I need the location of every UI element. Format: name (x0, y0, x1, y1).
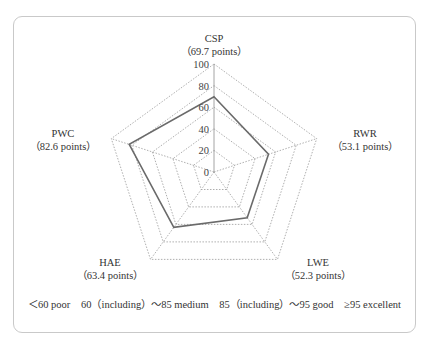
axis-label-csp: CSP （69.7 points） (174, 32, 254, 58)
axis-name: HAE (60, 256, 160, 269)
axis-name: LWE (268, 256, 368, 269)
axis-score: （63.4 points） (60, 269, 160, 282)
tick-label-0: 0 (204, 167, 209, 178)
tick-label-60: 60 (199, 102, 210, 113)
axis-label-lwe: LWE （52.3 points） (268, 256, 368, 282)
axis-label-rwr: RWR （53.1 points） (320, 127, 410, 153)
radial-tick-labels: 020406080100 (193, 59, 209, 178)
axis-name: CSP (174, 32, 254, 45)
axis-label-pwc: PWC （82.6 points） (18, 127, 108, 153)
axis-score: （69.7 points） (174, 45, 254, 58)
tick-label-80: 80 (199, 81, 210, 92)
axis-name: RWR (320, 127, 410, 140)
legend-medium: 60（including）～85 medium (81, 299, 209, 310)
legend-good: 85（including）～95 good (219, 299, 333, 310)
score-polygon (129, 97, 268, 228)
legend-poor: ＜60 poor (28, 299, 70, 310)
spoke-lwe (214, 172, 278, 259)
axis-score: （82.6 points） (18, 140, 108, 153)
tick-label-100: 100 (193, 59, 209, 70)
radar-spokes (111, 64, 316, 259)
spoke-hae (151, 172, 215, 259)
axis-name: PWC (18, 127, 108, 140)
tick-label-20: 20 (199, 145, 210, 156)
axis-label-hae: HAE （63.4 points） (60, 256, 160, 282)
rating-legend: ＜60 poor 60（including）～85 medium 85（incl… (0, 296, 429, 311)
axis-score: （52.3 points） (268, 269, 368, 282)
legend-excellent: ≥95 excellent (344, 299, 401, 310)
axis-score: （53.1 points） (320, 140, 410, 153)
tick-label-40: 40 (199, 124, 210, 135)
spoke-rwr (214, 139, 317, 172)
